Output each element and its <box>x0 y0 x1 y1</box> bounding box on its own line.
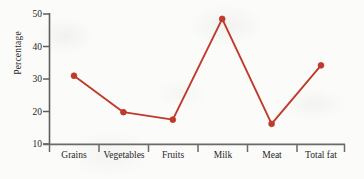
data-point-grains <box>71 73 77 79</box>
x-tick-label-fruits: Fruits <box>162 150 184 160</box>
x-tick-label-total-fat: Total fat <box>305 150 337 160</box>
x-tick-label-milk: Milk <box>214 150 232 160</box>
plot-area: Percentage 50 40 30 20 10 <box>0 0 364 179</box>
chart-figure: Percentage 50 40 30 20 10 <box>0 0 364 179</box>
x-tick-label-grains: Grains <box>61 150 86 160</box>
data-line-series <box>74 19 321 124</box>
x-tick-label-vegetables: Vegetables <box>103 150 144 160</box>
data-point-meat <box>269 121 275 127</box>
data-point-fruits <box>170 117 176 123</box>
data-point-vegetables <box>121 109 127 115</box>
y-axis-ticks <box>43 14 50 144</box>
x-tick-label-meat: Meat <box>262 150 282 160</box>
x-axis-ticks <box>50 144 345 152</box>
data-point-milk <box>219 16 225 22</box>
data-point-total-fat <box>318 62 324 68</box>
